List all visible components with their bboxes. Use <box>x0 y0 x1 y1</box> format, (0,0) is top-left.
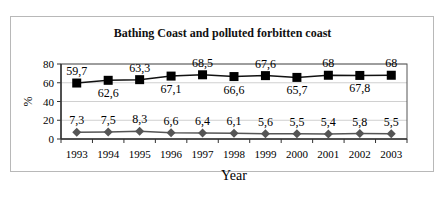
square-marker <box>261 71 270 80</box>
data-label: 66,6 <box>224 83 245 97</box>
y-tick-label: 20 <box>43 114 55 126</box>
diamond-marker <box>72 128 81 137</box>
diamond-marker <box>387 129 396 138</box>
x-tick-label: 1994 <box>97 148 120 160</box>
data-label: 5,8 <box>352 115 367 129</box>
data-label: 68,5 <box>192 56 213 70</box>
x-tick-label: 1999 <box>254 148 277 160</box>
diamond-marker <box>292 129 301 138</box>
square-marker <box>72 79 81 88</box>
x-tick-label: 2002 <box>349 148 371 160</box>
square-marker <box>230 72 239 81</box>
data-label: 5,5 <box>384 115 399 129</box>
y-tick-label: 80 <box>43 58 55 70</box>
x-axis-label: Year <box>221 168 247 183</box>
data-label: 63,3 <box>129 61 150 75</box>
x-tick-label: 1996 <box>160 148 183 160</box>
data-label: 5,5 <box>289 115 304 129</box>
x-tick-label: 1993 <box>66 148 89 160</box>
diamond-marker <box>355 129 364 138</box>
data-label: 65,7 <box>286 83 307 97</box>
data-label: 6,4 <box>195 114 210 128</box>
square-marker <box>324 71 333 80</box>
data-label: 67,6 <box>255 57 276 71</box>
data-label: 6,1 <box>227 114 242 128</box>
data-label: 67,1 <box>161 82 182 96</box>
diamond-marker <box>167 128 176 137</box>
diamond-marker <box>135 127 144 136</box>
data-label: 68 <box>385 56 397 70</box>
x-tick-label: 2003 <box>380 148 403 160</box>
square-marker <box>135 75 144 84</box>
data-label: 6,6 <box>164 114 179 128</box>
data-label: 7,5 <box>101 113 116 127</box>
x-tick-label: 1997 <box>192 148 215 160</box>
data-label: 67,8 <box>349 81 370 95</box>
diamond-marker <box>230 129 239 138</box>
square-marker <box>104 76 113 85</box>
data-label: 7,3 <box>69 113 84 127</box>
diamond-marker <box>104 127 113 136</box>
x-tick-label: 2000 <box>286 148 309 160</box>
square-marker <box>167 72 176 81</box>
data-label: 59,7 <box>66 64 87 78</box>
y-tick-label: 0 <box>49 133 55 145</box>
y-tick-label: 60 <box>43 77 55 89</box>
line-chart: 0204060801993199419951996199719981999200… <box>0 0 445 204</box>
x-tick-label: 1998 <box>223 148 246 160</box>
x-tick-label: 2001 <box>317 148 339 160</box>
diamond-marker <box>198 129 207 138</box>
data-label: 62,6 <box>98 86 119 100</box>
diamond-marker <box>324 129 333 138</box>
square-marker <box>198 70 207 79</box>
square-marker <box>292 73 301 82</box>
square-marker <box>387 71 396 80</box>
data-label: 5,4 <box>321 115 336 129</box>
data-label: 5,6 <box>258 115 273 129</box>
data-label: 68 <box>322 56 334 70</box>
diamond-marker <box>261 129 270 138</box>
x-tick-label: 1995 <box>129 148 152 160</box>
data-label: 8,3 <box>132 112 147 126</box>
y-tick-label: 40 <box>43 96 55 108</box>
square-marker <box>355 71 364 80</box>
y-axis-label: % <box>21 97 35 107</box>
